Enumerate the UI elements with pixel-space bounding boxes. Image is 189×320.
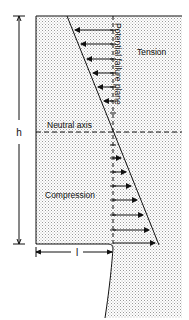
length-label: l (76, 247, 78, 258)
failure-plane-label: Potential failure plane (113, 23, 123, 105)
neutral-axis-label: Neutral axis (47, 120, 92, 130)
tension-label: Tension (137, 47, 167, 57)
compression-label: Compression (45, 190, 95, 200)
soil-region (36, 16, 182, 318)
stress-diagram: h l Tension Neutral axis Compression Pot… (0, 0, 189, 320)
length-dimension (36, 247, 112, 257)
height-label: h (16, 127, 22, 138)
